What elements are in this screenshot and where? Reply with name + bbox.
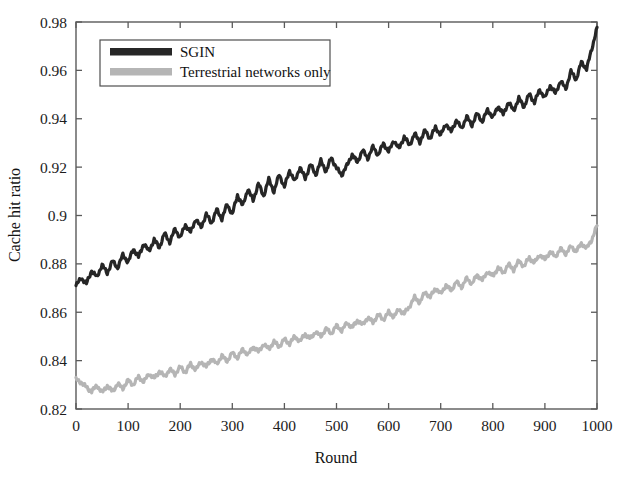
cache-hit-ratio-line-chart: 01002003004005006007008009001000 0.820.8…: [0, 0, 621, 477]
chart-legend: SGIN Terrestrial networks only: [100, 40, 331, 86]
x-tick-label: 900: [533, 417, 557, 434]
legend-label-sgin: SGIN: [180, 44, 215, 60]
x-tick-label: 300: [221, 417, 245, 434]
y-tick-label: 0.98: [40, 14, 67, 31]
legend-swatch-terrestrial: [110, 68, 172, 76]
y-tick-label: 0.9: [48, 207, 68, 224]
x-tick-label: 200: [169, 417, 193, 434]
x-tick-label: 800: [481, 417, 505, 434]
y-axis-title: Cache hit ratio: [6, 168, 23, 262]
x-axis-title: Round: [315, 449, 358, 466]
chart-figure: 01002003004005006007008009001000 0.820.8…: [0, 0, 621, 477]
y-tick-label: 0.82: [40, 401, 67, 418]
x-tick-label: 0: [72, 417, 80, 434]
x-tick-label: 500: [325, 417, 349, 434]
x-tick-label: 600: [377, 417, 401, 434]
x-tick-label: 1000: [582, 417, 613, 434]
x-tick-label: 100: [116, 417, 140, 434]
x-tick-label: 400: [273, 417, 297, 434]
y-tick-label: 0.86: [40, 304, 67, 321]
x-tick-label: 700: [429, 417, 453, 434]
y-tick-label: 0.88: [40, 255, 67, 272]
legend-swatch-sgin: [110, 48, 172, 56]
y-tick-label: 0.94: [40, 110, 67, 127]
y-tick-label: 0.92: [40, 159, 67, 176]
y-tick-label: 0.84: [40, 352, 67, 369]
legend-label-terrestrial: Terrestrial networks only: [180, 64, 331, 80]
y-tick-label: 0.96: [40, 62, 67, 79]
